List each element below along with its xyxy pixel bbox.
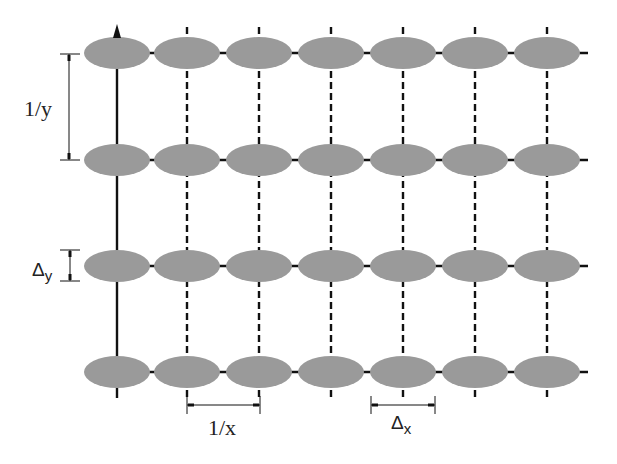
delta-x-label: Δx	[391, 412, 412, 437]
lattice-ellipse	[370, 37, 436, 69]
y-axis-arrow-icon	[113, 24, 121, 38]
lattice-ellipse	[226, 144, 292, 176]
lattice-diagram: 1/y Δy 1/x Δx	[0, 0, 617, 464]
lattice-ellipse	[370, 356, 436, 388]
lattice-ellipse	[84, 37, 150, 69]
lattice-ellipse	[514, 144, 580, 176]
lattice-ellipse	[154, 250, 220, 282]
vertical-lines	[117, 27, 547, 398]
lattice-ellipse	[370, 144, 436, 176]
lattice-ellipse	[226, 250, 292, 282]
period-y-dimension: 1/y	[24, 54, 80, 160]
lattice-ellipse	[442, 144, 508, 176]
lattice-ellipse	[154, 37, 220, 69]
lattice-ellipse	[226, 356, 292, 388]
lattice-ellipse	[370, 250, 436, 282]
lattice-ellipse	[514, 356, 580, 388]
period-x-label: 1/x	[208, 415, 236, 440]
delta-y-label: Δy	[32, 259, 53, 284]
lattice-ellipse	[84, 144, 150, 176]
lattice-ellipse	[154, 144, 220, 176]
lattice-ellipse	[514, 250, 580, 282]
lattice-ellipse	[84, 356, 150, 388]
lattice-ellipse	[154, 356, 220, 388]
lattice-ellipse	[442, 37, 508, 69]
delta-x-dimension: Δx	[371, 396, 435, 437]
lattice-ellipse	[298, 144, 364, 176]
delta-y-dimension: Δy	[32, 250, 80, 284]
lattice-ellipse	[84, 250, 150, 282]
lattice-ellipse	[298, 356, 364, 388]
period-y-label: 1/y	[24, 96, 52, 121]
lattice-ellipse	[226, 37, 292, 69]
lattice-ellipse	[298, 250, 364, 282]
lattice-ellipse	[442, 250, 508, 282]
lattice-ellipse	[514, 37, 580, 69]
lattice-ellipse	[298, 37, 364, 69]
lattice-ellipse	[442, 356, 508, 388]
period-x-dimension: 1/x	[187, 396, 260, 440]
